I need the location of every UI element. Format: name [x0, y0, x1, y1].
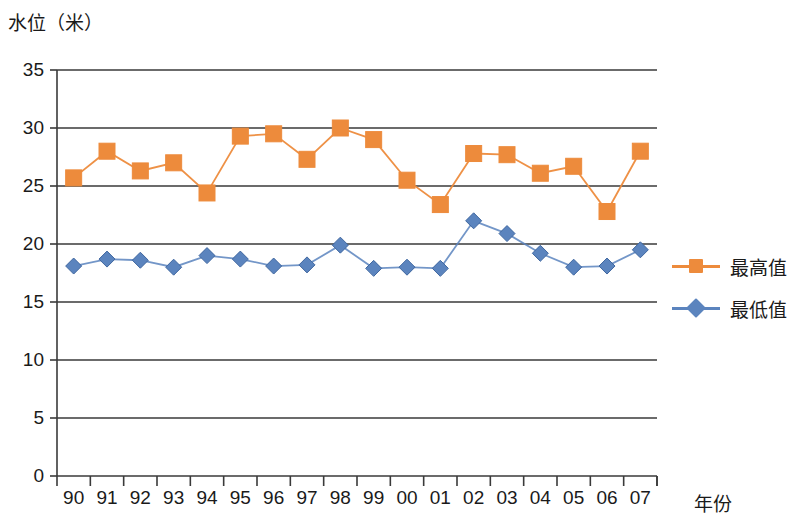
x-tick-label: 05: [563, 487, 584, 509]
y-tick-label: 35: [10, 59, 44, 81]
legend-key: [672, 298, 720, 318]
data-point: [499, 147, 515, 163]
x-tick-label: 00: [396, 487, 417, 509]
data-point: [532, 165, 548, 181]
y-axis-title: 水位（米）: [8, 8, 103, 35]
data-point: [166, 155, 182, 171]
data-point: [166, 259, 182, 275]
data-point: [566, 158, 582, 174]
data-point: [632, 143, 648, 159]
legend-item-1[interactable]: 最高值: [672, 245, 797, 287]
x-tick-label: 91: [96, 487, 117, 509]
y-tick-label: 30: [10, 117, 44, 139]
chart-legend: 最高值最低值: [672, 245, 797, 329]
x-tick-label: 99: [363, 487, 384, 509]
y-tick-label: 15: [10, 291, 44, 313]
data-point: [99, 251, 115, 267]
x-tick-label: 04: [530, 487, 551, 509]
data-point: [299, 151, 315, 167]
data-point: [199, 185, 215, 201]
data-point: [432, 260, 448, 276]
x-tick-label: 95: [230, 487, 251, 509]
y-tick-label: 5: [10, 407, 44, 429]
x-tick-label: 01: [430, 487, 451, 509]
x-tick-label: 03: [496, 487, 517, 509]
x-tick-label: 90: [63, 487, 84, 509]
legend-diamond-marker-icon: [686, 298, 706, 318]
x-tick-label: 98: [330, 487, 351, 509]
legend-label: 最低值: [730, 295, 787, 322]
water-level-line-chart: 水位（米） 年份 05101520253035 9091929394959697…: [0, 0, 801, 520]
data-point: [566, 259, 582, 275]
x-tick-label: 96: [263, 487, 284, 509]
legend-item-2[interactable]: 最低值: [672, 287, 797, 329]
series-line: [74, 128, 641, 212]
data-point: [66, 170, 82, 186]
x-tick-label: 94: [196, 487, 217, 509]
data-point: [232, 251, 248, 267]
legend-label: 最高值: [730, 253, 787, 280]
series-1: [66, 120, 649, 220]
legend-square-marker-icon: [689, 259, 703, 273]
x-tick-label: 07: [630, 487, 651, 509]
data-point: [399, 259, 415, 275]
data-point: [366, 260, 382, 276]
data-point: [399, 172, 415, 188]
data-point: [199, 248, 215, 264]
x-tick-label: 97: [296, 487, 317, 509]
x-axis-title: 年份: [694, 489, 732, 516]
data-point: [232, 128, 248, 144]
data-point: [599, 258, 615, 274]
data-point: [132, 163, 148, 179]
data-point: [466, 213, 482, 229]
data-point: [499, 226, 515, 242]
y-tick-label: 25: [10, 175, 44, 197]
data-point: [132, 252, 148, 268]
legend-key: [672, 256, 720, 276]
x-tick-label: 92: [130, 487, 151, 509]
x-tick-label: 06: [596, 487, 617, 509]
y-tick-label: 0: [10, 465, 44, 487]
data-point: [366, 132, 382, 148]
data-point: [332, 120, 348, 136]
data-point: [432, 197, 448, 213]
x-tick-label: 93: [163, 487, 184, 509]
data-point: [266, 258, 282, 274]
data-point: [332, 237, 348, 253]
data-point: [266, 126, 282, 142]
data-point: [99, 143, 115, 159]
x-tick-label: 02: [463, 487, 484, 509]
y-tick-label: 10: [10, 349, 44, 371]
data-point: [532, 245, 548, 261]
data-point: [299, 257, 315, 273]
y-tick-label: 20: [10, 233, 44, 255]
data-point: [466, 146, 482, 162]
data-point: [66, 258, 82, 274]
data-point: [599, 204, 615, 220]
